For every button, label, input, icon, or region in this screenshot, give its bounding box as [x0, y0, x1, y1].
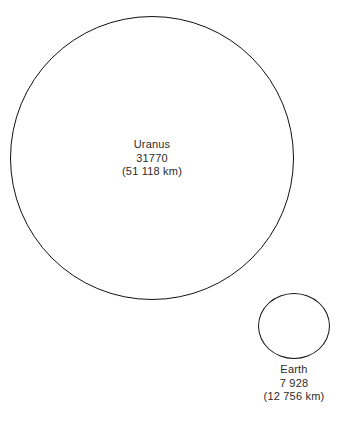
- uranus-diameter-miles: 31770: [52, 152, 252, 166]
- uranus-name: Uranus: [52, 138, 252, 152]
- earth-diameter-miles: 7 928: [244, 377, 344, 391]
- earth-label: Earth 7 928 (12 756 km): [244, 363, 344, 404]
- planet-size-comparison-figure: Uranus 31770 (51 118 km) Earth 7 928 (12…: [0, 0, 344, 421]
- earth-name: Earth: [244, 363, 344, 377]
- uranus-label: Uranus 31770 (51 118 km): [52, 138, 252, 179]
- earth-diameter-km: (12 756 km): [244, 390, 344, 404]
- earth-circle: [258, 293, 330, 359]
- uranus-diameter-km: (51 118 km): [52, 165, 252, 179]
